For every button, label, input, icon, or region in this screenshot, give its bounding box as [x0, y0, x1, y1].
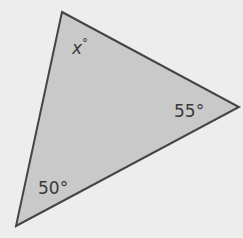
angle-label-bottom-left: 50°	[38, 178, 68, 198]
triangle-diagram: x° 55° 50°	[0, 0, 243, 238]
degree-symbol: °	[82, 36, 88, 50]
angle-label-right: 55°	[174, 101, 204, 121]
